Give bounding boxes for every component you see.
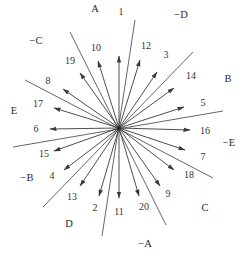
arrow-label-5: 5 bbox=[201, 98, 206, 108]
arrow-label-17: 17 bbox=[33, 99, 43, 109]
arrow-vector-16 bbox=[119, 128, 190, 130]
arrow-vector-8 bbox=[63, 89, 119, 128]
arrow-vector-3 bbox=[119, 72, 157, 128]
arrow-label-1: 1 bbox=[119, 7, 124, 17]
arrow-label-15: 15 bbox=[39, 149, 49, 159]
arrow-vector-5 bbox=[119, 107, 184, 128]
arrow-label-16: 16 bbox=[200, 126, 210, 136]
arrow-label-6: 6 bbox=[34, 124, 39, 134]
arrow-label-7: 7 bbox=[201, 152, 206, 162]
arrow-vector-4 bbox=[64, 128, 119, 170]
center-point bbox=[117, 126, 121, 130]
arrow-vector-13 bbox=[80, 128, 119, 186]
arrow-label-20: 20 bbox=[139, 202, 149, 212]
arrow-vector-19 bbox=[80, 73, 119, 128]
arrow-label-9: 9 bbox=[166, 189, 171, 199]
axis-label-A: A bbox=[91, 4, 99, 15]
arrow-vector-6 bbox=[50, 128, 119, 129]
axis-label-E: E bbox=[11, 106, 17, 117]
axis-label-neg-D: −D bbox=[174, 10, 188, 21]
axis-label-neg-C: −C bbox=[30, 36, 43, 47]
arrow-label-4: 4 bbox=[50, 171, 55, 181]
arrow-vector-15 bbox=[54, 128, 119, 151]
arrow-label-11: 11 bbox=[114, 207, 124, 217]
arrow-label-3: 3 bbox=[164, 50, 169, 60]
axis-label-D: D bbox=[65, 219, 73, 230]
arrow-label-8: 8 bbox=[46, 76, 51, 86]
axis-label-B: B bbox=[224, 74, 231, 85]
arrow-vector-18 bbox=[119, 128, 174, 170]
arrow-vector-14 bbox=[119, 88, 174, 128]
axis-label-neg-E: −E bbox=[223, 138, 235, 149]
arrow-label-19: 19 bbox=[65, 56, 75, 66]
arrow-label-10: 10 bbox=[91, 43, 101, 53]
arrow-label-14: 14 bbox=[186, 71, 196, 81]
arrow-label-18: 18 bbox=[184, 170, 194, 180]
axis-label-neg-B: −B bbox=[21, 173, 34, 184]
axis-label-C: C bbox=[201, 203, 208, 214]
arrow-label-2: 2 bbox=[93, 203, 98, 213]
arrow-vector-9 bbox=[119, 128, 160, 186]
arrow-label-13: 13 bbox=[67, 192, 77, 202]
axis-label-neg-A: −A bbox=[138, 239, 152, 250]
arrow-label-12: 12 bbox=[141, 41, 151, 51]
